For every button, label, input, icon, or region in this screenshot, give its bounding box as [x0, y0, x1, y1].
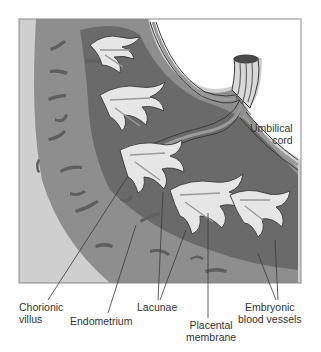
label-endometrium: Endometrium: [70, 316, 132, 328]
placenta-diagram: Umbilical cord Chorionic villus Endometr…: [0, 0, 321, 352]
label-lacunae: Lacunae: [137, 302, 177, 314]
label-embryonic-blood-vessels: Embryonic blood vessels: [238, 302, 302, 325]
label-chorionic-villus: Chorionic villus: [19, 302, 63, 325]
placenta-illustration: [0, 0, 321, 352]
label-umbilical-cord: Umbilical cord: [250, 123, 293, 146]
label-placental-membrane: Placental membrane: [186, 320, 236, 343]
